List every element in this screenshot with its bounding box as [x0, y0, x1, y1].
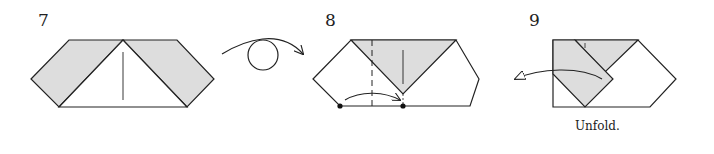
step-9-diagram [515, 40, 676, 107]
step-8-reference-dot-right [400, 103, 405, 108]
turn-over-arrow [222, 39, 303, 70]
step-8-diagram [313, 40, 479, 109]
step-7-diagram [31, 40, 214, 107]
origami-diagram [0, 0, 714, 154]
turn-over-loop-icon [248, 40, 278, 70]
step-8-reference-dot-left [337, 103, 342, 108]
